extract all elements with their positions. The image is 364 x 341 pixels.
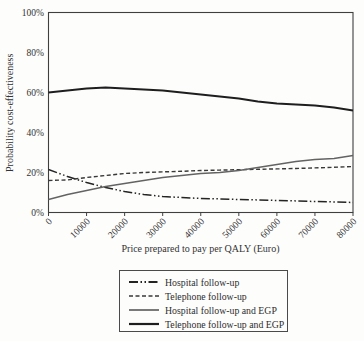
series-line-hospital-follow-up <box>49 170 354 203</box>
x-tick-label: 0 <box>43 216 54 227</box>
y-tick-label: 20% <box>27 168 45 178</box>
y-tick-label: 60% <box>27 88 45 98</box>
x-tick-label: 10000 <box>68 216 92 240</box>
legend-label: Telephone follow-up and EGP <box>165 319 284 330</box>
legend: Hospital follow-up Telephone follow-up H… <box>119 270 288 332</box>
y-tick-label: 0% <box>31 208 44 218</box>
x-tick-label: 40000 <box>182 216 206 240</box>
legend-swatch-dark-solid-icon <box>129 320 159 328</box>
legend-swatch-gray-solid-icon <box>129 306 159 314</box>
figure-cost-effectiveness-chart: Probability cost-effectiveness 0%20%40%6… <box>0 0 364 341</box>
x-tick-label: 80000 <box>335 216 359 240</box>
legend-label: Telephone follow-up <box>165 291 247 302</box>
y-tick-label: 100% <box>22 8 44 18</box>
legend-item-hospital-follow-up-egp: Hospital follow-up and EGP <box>129 303 287 317</box>
x-tick-label: 20000 <box>106 216 130 240</box>
x-tick-label: 30000 <box>144 216 168 240</box>
y-tick-label: 80% <box>27 48 45 58</box>
x-tick-label: 70000 <box>296 216 320 240</box>
legend-item-hospital-follow-up: Hospital follow-up <box>129 275 287 289</box>
plot-svg: 0%20%40%60%80%100%0100002000030000400005… <box>0 0 364 242</box>
legend-item-telephone-follow-up: Telephone follow-up <box>129 289 287 303</box>
series-line-hospital-follow-up-and-egp <box>49 156 354 200</box>
x-tick-label: 50000 <box>220 216 244 240</box>
plot-border <box>49 13 354 213</box>
legend-swatch-dash-dot-icon <box>129 278 159 286</box>
legend-label: Hospital follow-up <box>165 277 239 288</box>
series-line-telephone-follow-up-and-egp <box>49 88 354 111</box>
legend-label: Hospital follow-up and EGP <box>165 305 277 316</box>
x-tick-label: 60000 <box>258 216 282 240</box>
x-axis-title: Price prepared to pay per QALY (Euro) <box>48 243 353 254</box>
y-tick-label: 40% <box>27 128 45 138</box>
legend-item-telephone-follow-up-egp: Telephone follow-up and EGP <box>129 317 287 331</box>
legend-swatch-dashed-icon <box>129 292 159 300</box>
